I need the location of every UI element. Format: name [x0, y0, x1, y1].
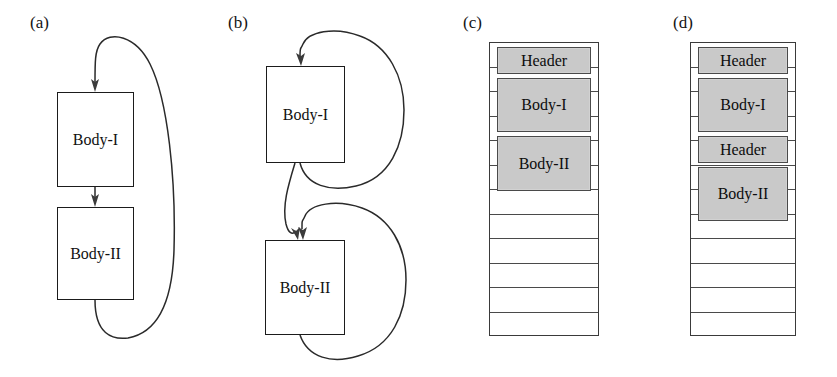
- panel-d-body-2-label: Body-II: [718, 185, 769, 203]
- panel-label-c: (c): [463, 14, 482, 31]
- panel-d-body-1-label: Body-I: [720, 96, 765, 114]
- panel-a-body-1-box: Body-I: [57, 92, 134, 187]
- panel-b-body1-to-body2-arrowhead: [291, 227, 300, 240]
- stack-row: [691, 288, 795, 313]
- panel-c-body-1-label: Body-I: [521, 96, 566, 114]
- stack-row: [490, 313, 598, 337]
- panel-c-header-label: Header: [521, 52, 567, 70]
- panel-b-body1-to-body2-path: [285, 163, 296, 233]
- stack-row: [490, 190, 598, 215]
- panel-d-body-1-block: Body-I: [698, 78, 788, 132]
- stack-row: [490, 288, 598, 313]
- panel-c-body-2-label: Body-II: [519, 155, 570, 173]
- panel-b-body1-entry-arrowhead: [296, 53, 305, 66]
- panel-d-header-block-1: Header: [698, 47, 788, 74]
- panel-b-body2-entry-arrowhead: [298, 227, 307, 240]
- panel-a-entry-arrowhead: [91, 79, 99, 92]
- panel-c-body-2-block: Body-II: [497, 136, 591, 191]
- panel-b-body-1-label: Body-I: [283, 106, 328, 124]
- panel-a-body-2-label: Body-II: [70, 245, 121, 263]
- stack-row: [490, 264, 598, 289]
- stack-row: [490, 239, 598, 264]
- panel-d-header-1-label: Header: [720, 52, 766, 70]
- panel-a-body-2-box: Body-II: [57, 207, 134, 300]
- stack-row: [490, 215, 598, 240]
- panel-c-header-block: Header: [497, 47, 591, 74]
- panel-d-header-2-label: Header: [720, 141, 766, 159]
- panel-d-body-2-block: Body-II: [698, 167, 788, 221]
- panel-b-body-2-box: Body-II: [265, 240, 345, 335]
- stack-row: [691, 313, 795, 337]
- panel-label-d: (d): [673, 14, 693, 31]
- panel-b-body-2-label: Body-II: [280, 279, 331, 297]
- panel-c-body-1-block: Body-I: [497, 78, 591, 132]
- figure-canvas: (a) (b) (c) (d) Body-I Body-II Body-I Bo…: [0, 0, 837, 377]
- panel-b-body-1-box: Body-I: [266, 66, 345, 163]
- panel-label-a: (a): [30, 14, 49, 31]
- stack-row: [691, 264, 795, 289]
- panel-a-body1-to-body2-arrowhead: [91, 194, 99, 207]
- stack-row: [691, 239, 795, 264]
- panel-a-body-1-label: Body-I: [73, 131, 118, 149]
- panel-label-b: (b): [228, 14, 248, 31]
- panel-d-header-block-2: Header: [698, 136, 788, 163]
